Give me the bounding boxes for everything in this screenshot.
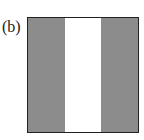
right-gray-stripe <box>101 18 138 132</box>
striped-square-panel <box>27 17 139 133</box>
center-white-stripe <box>65 18 101 132</box>
left-gray-stripe <box>28 18 65 132</box>
panel-label: (b) <box>2 17 21 37</box>
